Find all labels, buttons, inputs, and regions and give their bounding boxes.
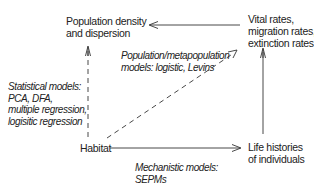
label-text-line: PCA, DFA,	[8, 93, 87, 105]
node-habitat: Habitat	[80, 142, 111, 154]
node-population-density: Population density and dispersion	[66, 15, 146, 39]
node-text-line: of individuals	[248, 153, 305, 165]
node-text-line: Life histories	[248, 141, 305, 153]
node-text-line: and dispersion	[66, 27, 146, 39]
edge-vital-to-density	[149, 22, 240, 29]
edge-habitat-to-life	[110, 145, 241, 152]
label-text-line: Population/metapopulation	[121, 50, 229, 62]
label-statistical-models: Statistical models: PCA, DFA, multiple r…	[8, 81, 87, 127]
label-text-line: multiple regression,	[8, 104, 87, 116]
label-mechanistic-models: Mechanistic models: SEPMs	[135, 162, 218, 185]
node-vital-rates: Vital rates, migration rates, extinction…	[248, 13, 314, 49]
label-population-models: Population/metapopulation models: logist…	[121, 50, 229, 73]
node-text-line: extinction rates	[248, 37, 314, 49]
diagram-canvas: Population density and dispersion Vital …	[0, 0, 314, 190]
node-text-line: Population density	[66, 15, 146, 27]
node-text-line: Habitat	[80, 142, 111, 154]
label-text-line: logisitic regression	[8, 116, 87, 128]
node-life-histories: Life histories of individuals	[248, 141, 305, 165]
node-text-line: migration rates,	[248, 25, 314, 37]
label-text-line: Statistical models:	[8, 81, 87, 93]
label-text-line: SEPMs	[135, 174, 218, 186]
label-text-line: models: logistic, Levins	[121, 62, 229, 74]
node-text-line: Vital rates,	[248, 13, 314, 25]
edge-life-to-vital	[261, 48, 266, 134]
label-text-line: Mechanistic models:	[135, 162, 218, 174]
